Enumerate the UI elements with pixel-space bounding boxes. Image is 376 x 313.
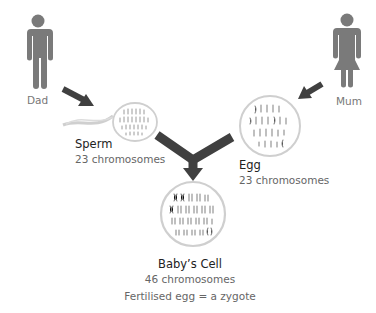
sperm-cell-icon — [63, 103, 157, 141]
sperm-chromosome-count: 23 chromosomes — [75, 153, 165, 165]
dad-label: Dad — [27, 94, 48, 106]
dad-figure-icon — [27, 15, 53, 90]
merge-arrow-icon — [157, 135, 232, 181]
egg-chromosome-count: 23 chromosomes — [239, 174, 329, 186]
baby-cell-icon — [161, 182, 225, 246]
egg-title: Egg — [239, 158, 261, 172]
mum-label: Mum — [336, 95, 362, 107]
mum-to-egg-arrow-icon — [298, 84, 322, 99]
mum-figure-icon — [333, 14, 361, 88]
egg-cell-icon — [240, 96, 300, 156]
baby-cell-title: Baby’s Cell — [158, 257, 222, 271]
dad-to-sperm-arrow-icon — [63, 89, 94, 106]
zygote-note: Fertilised egg = a zygote — [124, 290, 255, 302]
baby-chromosome-count: 46 chromosomes — [145, 273, 235, 285]
sperm-title: Sperm — [75, 137, 112, 151]
